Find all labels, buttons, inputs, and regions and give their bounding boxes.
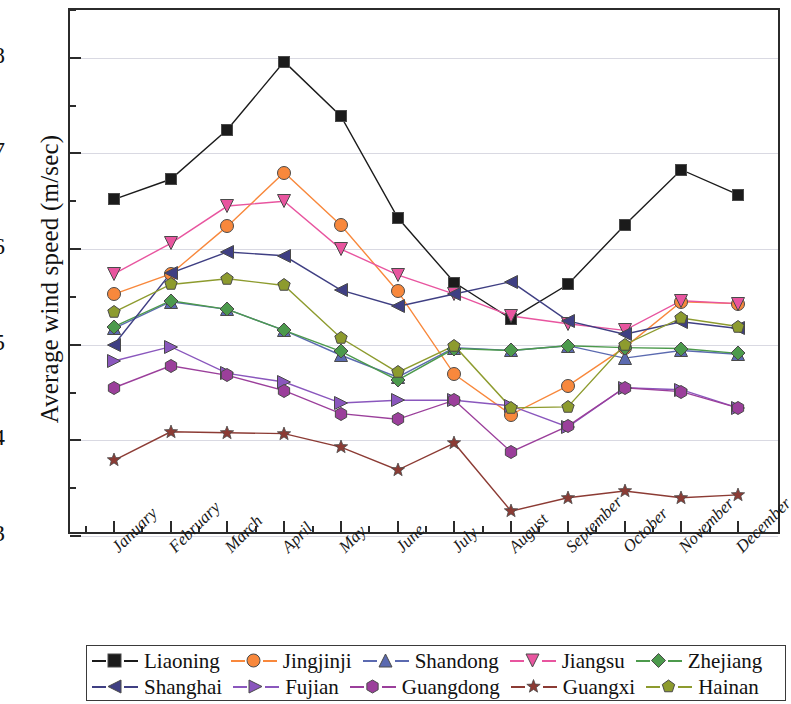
legend-entry-fujian[interactable]: Fujian	[232, 677, 349, 698]
data-point-liaoning-april	[278, 55, 291, 68]
legend-entry-guangdong[interactable]: Guangdong	[349, 677, 510, 698]
plot-area	[68, 8, 780, 534]
legend-marker-pentagon-icon	[661, 679, 677, 695]
data-point-fujian-january	[107, 353, 122, 368]
series-line-guangdong	[114, 366, 738, 452]
legend-marker-triangle-right-icon	[248, 679, 264, 695]
legend-entry-zhejiang[interactable]: Zhejiang	[635, 651, 773, 672]
data-point-zhejiang-december	[731, 346, 746, 361]
data-point-liaoning-october	[618, 219, 631, 232]
data-point-jingjinji-may	[333, 218, 348, 233]
series-line-jingjinji	[114, 173, 738, 415]
data-point-zhejiang-may	[333, 344, 348, 359]
data-point-jingjinji-march	[220, 219, 235, 234]
legend-row-2: ShanghaiFujianGuangdongGuangxiHainan	[91, 674, 781, 700]
data-point-guangdong-november	[674, 384, 689, 399]
data-point-zhejiang-january	[107, 319, 122, 334]
data-point-hainan-may	[333, 331, 348, 346]
legend-entry-jiangsu[interactable]: Jiangsu	[509, 651, 635, 672]
data-point-guangxi-may	[333, 440, 348, 455]
legend-line-segment	[265, 686, 279, 688]
data-point-guangdong-february	[163, 358, 178, 373]
legend-line-segment	[678, 686, 692, 688]
data-point-guangxi-january	[107, 453, 122, 468]
data-point-guangxi-march	[220, 425, 235, 440]
legend-marker-triangle-down-icon	[525, 653, 541, 669]
data-point-fujian-june	[390, 393, 405, 408]
legend-line-segment	[542, 660, 556, 662]
data-point-zhejiang-march	[220, 302, 235, 317]
y-tick-label: 5	[0, 330, 5, 354]
legend-line-segment	[363, 660, 377, 662]
data-point-jiangsu-august	[504, 309, 519, 324]
data-point-liaoning-january	[108, 193, 121, 206]
data-point-shanghai-june	[390, 299, 405, 314]
data-point-jingjinji-july	[447, 367, 462, 382]
legend-entry-hainan[interactable]: Hainan	[645, 677, 769, 698]
legend-line-segment	[233, 686, 247, 688]
legend-entry-liaoning[interactable]: Liaoning	[91, 651, 230, 672]
data-point-zhejiang-september	[560, 338, 575, 353]
data-point-guangdong-march	[220, 368, 235, 383]
data-point-guangxi-june	[390, 463, 405, 478]
legend-line-segment	[511, 686, 525, 688]
legend-marker-triangle-up-icon	[378, 653, 394, 669]
data-point-jiangsu-march	[220, 199, 235, 214]
legend-line-segment	[231, 660, 245, 662]
legend-marker-square-icon	[107, 653, 123, 669]
legend-marker-triangle-left-icon	[107, 679, 123, 695]
data-point-shanghai-september	[560, 313, 575, 328]
legend-row-1: LiaoningJingjinjiShandongJiangsuZhejiang	[91, 648, 781, 674]
data-point-liaoning-november	[675, 163, 688, 176]
data-point-zhejiang-august	[504, 343, 519, 358]
data-point-guangxi-july	[447, 436, 462, 451]
data-point-guangdong-september	[560, 419, 575, 434]
data-point-hainan-october	[617, 337, 632, 352]
legend-label: Jiangsu	[562, 651, 625, 672]
chart-legend: LiaoningJingjinjiShandongJiangsuZhejiang…	[86, 645, 786, 701]
data-point-hainan-march	[220, 271, 235, 286]
legend-entry-shanghai[interactable]: Shanghai	[91, 677, 232, 698]
legend-label: Jingjinji	[283, 651, 352, 672]
data-point-shanghai-april	[277, 248, 292, 263]
wind-speed-line-chart: Average wind speed (m/sec) 345678 Januar…	[0, 0, 791, 704]
legend-entry-shandong[interactable]: Shandong	[362, 651, 509, 672]
data-point-guangxi-october	[617, 484, 632, 499]
data-point-jingjinji-september	[560, 378, 575, 393]
legend-label: Liaoning	[144, 651, 220, 672]
data-point-jiangsu-may	[333, 242, 348, 257]
data-point-liaoning-december	[732, 188, 745, 201]
legend-entry-jingjinji[interactable]: Jingjinji	[230, 651, 362, 672]
data-point-jingjinji-april	[277, 165, 292, 180]
data-point-guangdong-august	[504, 444, 519, 459]
legend-marker-star-icon	[526, 679, 542, 695]
data-point-jiangsu-february	[163, 236, 178, 251]
data-point-jiangsu-june	[390, 267, 405, 282]
data-point-hainan-june	[390, 365, 405, 380]
y-tick-label: 6	[0, 234, 5, 258]
series-line-jiangsu	[114, 201, 738, 330]
data-point-liaoning-may	[334, 110, 347, 123]
data-point-liaoning-march	[221, 123, 234, 136]
legend-label: Guangdong	[402, 677, 500, 698]
data-point-jingjinji-june	[390, 284, 405, 299]
data-point-jiangsu-january	[107, 266, 122, 281]
data-point-jiangsu-december	[731, 296, 746, 311]
data-point-guangxi-february	[163, 424, 178, 439]
legend-line-segment	[124, 686, 138, 688]
data-point-guangxi-august	[504, 504, 519, 519]
legend-line-segment	[510, 660, 524, 662]
data-point-guangdong-july	[447, 393, 462, 408]
y-tick-label: 8	[0, 43, 5, 67]
legend-entry-guangxi[interactable]: Guangxi	[510, 677, 645, 698]
data-series-layer	[70, 10, 778, 532]
data-point-liaoning-february	[164, 173, 177, 186]
data-point-fujian-february	[163, 339, 178, 354]
data-point-hainan-july	[447, 338, 462, 353]
data-point-guangdong-january	[107, 380, 122, 395]
y-tick-label: 3	[0, 521, 5, 545]
data-point-guangxi-december	[731, 487, 746, 502]
data-point-jiangsu-april	[277, 194, 292, 209]
legend-label: Hainan	[698, 677, 759, 698]
data-point-guangdong-june	[390, 412, 405, 427]
